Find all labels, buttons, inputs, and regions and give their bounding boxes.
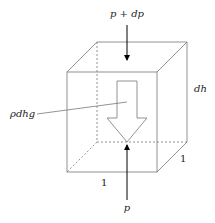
weight-arrow: [107, 81, 147, 142]
weight-label: ρdhg: [9, 108, 35, 119]
height-label: dh: [194, 83, 207, 94]
bottom-pressure-label: p: [124, 202, 131, 213]
depth-label: 1: [180, 153, 186, 164]
diagram-canvas: p + dp p ρdhg dh 1 1: [0, 0, 215, 223]
top-pressure-label: p + dp: [110, 8, 145, 19]
weight-leader-line: [37, 102, 127, 114]
width-label: 1: [101, 177, 107, 188]
